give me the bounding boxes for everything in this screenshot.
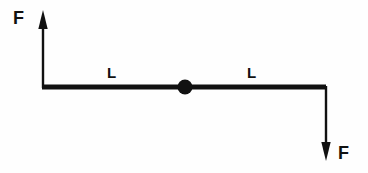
force-label-bottom: F [338, 144, 349, 162]
arrow-down-head [321, 142, 330, 161]
diagram-canvas [0, 0, 368, 173]
pivot-point [178, 80, 193, 95]
arrow-up-head [38, 10, 47, 29]
force-label-top: F [13, 9, 24, 27]
force-arrow-down [321, 86, 330, 161]
force-couple-diagram: F L L F [0, 0, 368, 173]
length-label-right: L [247, 65, 256, 80]
length-label-left: L [107, 65, 116, 80]
force-arrow-up [38, 10, 47, 88]
